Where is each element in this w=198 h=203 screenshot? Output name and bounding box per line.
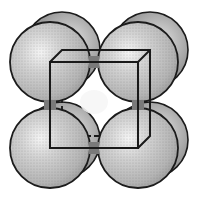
center-highlight <box>80 90 108 114</box>
unit-cell-diagram <box>0 0 198 203</box>
